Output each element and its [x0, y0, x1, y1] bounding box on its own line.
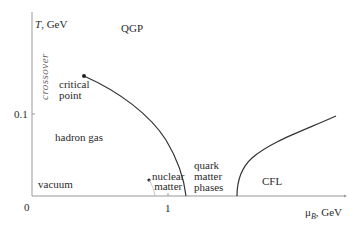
x-axis-unit: , GeV [316, 206, 342, 218]
y-axis-label: T, GeV [35, 18, 67, 30]
region-vacuum: vacuum [38, 178, 73, 190]
cfl-boundary-line [237, 116, 336, 196]
y-axis-unit: , GeV [41, 18, 67, 30]
critical-point-label: critical point [59, 79, 90, 101]
x-origin-label: 0 [24, 201, 30, 213]
region-cfl: CFL [262, 175, 282, 187]
region-hadron-gas: hadron gas [55, 131, 103, 143]
region-quark-matter-phases: quark matter phases [194, 160, 223, 193]
nuclear-matter-line2: matter [152, 181, 184, 191]
nuclear-matter-label: nuclear matter [152, 171, 184, 191]
x-axis-label: μB, GeV [305, 206, 342, 223]
region-crossover: crossover [38, 53, 50, 100]
x-tick-label: 1 [165, 202, 171, 214]
region-qgp: QGP [121, 22, 143, 34]
phase-diagram-canvas [0, 0, 361, 228]
quark-line3: phases [194, 182, 223, 193]
critical-point-line2: point [59, 90, 90, 101]
y-tick-label: 0.1 [14, 108, 28, 120]
x-axis-arrow [344, 195, 347, 198]
